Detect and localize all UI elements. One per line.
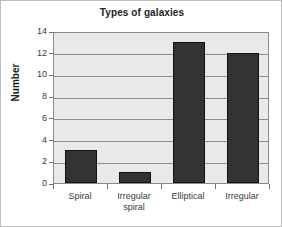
y-tick-label-2: 2: [11, 157, 47, 166]
x-label-line: Irregular: [107, 191, 161, 202]
y-tick-label-12: 12: [11, 49, 47, 58]
x-axis-label-spiral: Spiral: [53, 191, 107, 202]
x-label-line: Elliptical: [161, 191, 215, 202]
x-tick-0: [53, 184, 54, 189]
y-tick-label-4: 4: [11, 136, 47, 145]
x-label-line: Spiral: [53, 191, 107, 202]
bar-elliptical: [173, 42, 205, 183]
bar-irregular: [227, 53, 259, 183]
x-label-line: spiral: [107, 202, 161, 213]
y-tick-label-10: 10: [11, 70, 47, 79]
y-tick-label-0: 0: [11, 179, 47, 188]
x-label-line: Irregular: [215, 191, 269, 202]
x-axis-labels: SpiralIrregularspiralEllipticalIrregular: [53, 191, 269, 225]
x-axis-label-irregular: Irregular: [215, 191, 269, 202]
y-tick-label-6: 6: [11, 114, 47, 123]
x-tick-4: [269, 184, 270, 189]
x-tick-2: [161, 184, 162, 189]
x-axis-label-elliptical: Elliptical: [161, 191, 215, 202]
y-axis-labels: 02468101214: [1, 1, 47, 227]
y-tick-label-8: 8: [11, 92, 47, 101]
plot-area: [53, 32, 269, 184]
x-tick-3: [215, 184, 216, 189]
x-tick-1: [107, 184, 108, 189]
x-axis-label-irregular-spiral: Irregularspiral: [107, 191, 161, 213]
y-tick-label-14: 14: [11, 27, 47, 36]
bar-spiral: [65, 150, 97, 183]
bar-irregular-spiral: [119, 172, 151, 183]
chart-screenshot: Types of galaxies Number 02468101214 Spi…: [0, 0, 282, 227]
